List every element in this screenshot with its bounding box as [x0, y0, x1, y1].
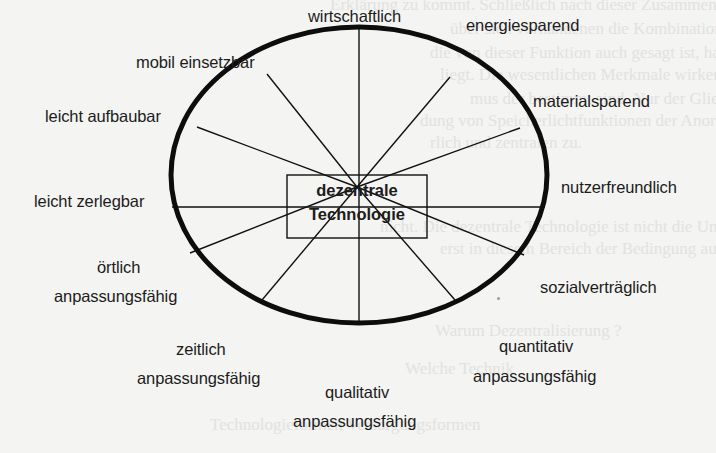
center-label-line1: dezentrale	[287, 178, 427, 202]
label-quantitativ-line2: anpassungsfähig	[473, 367, 596, 386]
label-leicht-zerlegbar: leicht zerlegbar	[34, 192, 144, 211]
label-materialsparend: materialsparend	[533, 92, 650, 111]
scan-speck	[497, 297, 500, 300]
label-qualitativ-line1: qualitativ	[325, 383, 389, 402]
label-leicht-aufbaubar: leicht aufbaubar	[45, 107, 161, 126]
center-label-line2: Technologie	[287, 202, 427, 226]
label-zeitlich-line2: anpassungsfähig	[137, 369, 260, 388]
label-oertlich-line1: örtlich	[97, 258, 140, 277]
label-wirtschaftlich: wirtschaftlich	[308, 7, 401, 26]
label-mobil-einsetzbar: mobil einsetzbar	[136, 53, 255, 72]
label-oertlich-line2: anpassungsfähig	[54, 287, 177, 306]
label-zeitlich-line1: zeitlich	[176, 340, 226, 359]
label-energiesparend: energiesparend	[466, 16, 579, 35]
label-quantitativ-line1: quantitativ	[499, 337, 573, 356]
center-label: dezentrale Technologie	[287, 178, 427, 226]
label-qualitativ-line2: anpassungsfähig	[293, 412, 416, 431]
label-nutzerfreundlich: nutzerfreundlich	[561, 178, 677, 197]
label-sozialvertraeglich: sozialverträglich	[540, 278, 657, 297]
